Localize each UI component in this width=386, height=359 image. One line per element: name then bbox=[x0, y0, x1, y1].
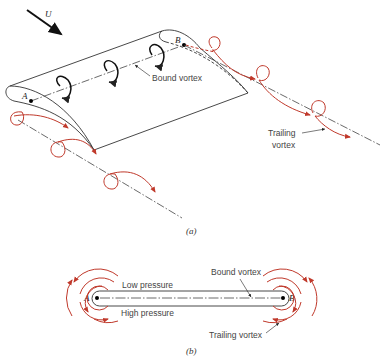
low-pressure-label: Low pressure bbox=[122, 280, 173, 290]
trailing-vortex-label-1: Trailing bbox=[268, 128, 296, 138]
point-b-dot-b bbox=[281, 296, 285, 300]
panel-b: A B Low pressure High pressure Bound vor… bbox=[66, 267, 316, 356]
left-trailing-axis bbox=[18, 120, 182, 218]
trailing-vortex-label-b: Trailing vortex bbox=[209, 330, 263, 340]
trailing-vortex-label-2: vortex bbox=[272, 140, 296, 150]
bound-vortex-leader-b bbox=[240, 279, 251, 297]
bound-vortex-leader bbox=[135, 65, 150, 76]
point-a-label: A bbox=[21, 91, 28, 101]
wing-vortex-diagram: U A B Bound vortex bbox=[0, 0, 386, 359]
bound-vortex-circulation-icons bbox=[57, 45, 164, 99]
point-b-label: B bbox=[175, 35, 181, 45]
left-trailing-vortex bbox=[11, 112, 155, 192]
point-a-dot bbox=[29, 99, 33, 103]
trailing-vortex-leader bbox=[302, 129, 325, 133]
flow-arrow-icon bbox=[27, 10, 61, 34]
right-trailing-vortex bbox=[186, 37, 350, 137]
panel-a-caption: (a) bbox=[186, 226, 197, 236]
trailing-vortex-leader-b bbox=[266, 323, 279, 333]
bound-vortex-label: Bound vortex bbox=[152, 73, 203, 83]
panel-a: U A B Bound vortex bbox=[6, 9, 380, 236]
wing-cross-section bbox=[92, 291, 289, 306]
flow-label: U bbox=[45, 9, 52, 19]
panel-b-caption: (b) bbox=[186, 346, 197, 356]
bound-vortex-label-b: Bound vortex bbox=[211, 267, 262, 277]
high-pressure-label: High pressure bbox=[121, 308, 174, 318]
point-a-dot-b bbox=[95, 296, 99, 300]
